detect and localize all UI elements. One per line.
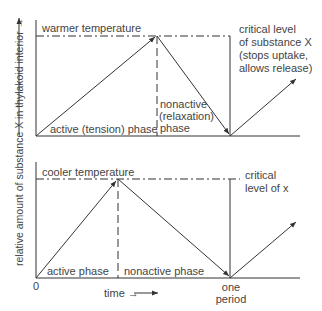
top-rise2-line — [230, 79, 296, 136]
top-critical-label-3: (stops uptake, — [239, 49, 308, 61]
bottom-active-phase-label: active phase — [47, 265, 109, 277]
origin-label: 0 — [33, 280, 39, 292]
bottom-rise-line — [36, 181, 116, 278]
bottom-critical-label-2: level of x — [245, 182, 288, 194]
bottom-rise2-line — [230, 222, 296, 278]
one-period-label: one period — [214, 281, 248, 305]
bottom-nonactive-phase-label: nonactive phase — [124, 265, 204, 277]
top-critical-label-1: critical level — [239, 23, 296, 35]
top-threshold-label: warmer temperature — [42, 22, 141, 34]
time-label: time → — [104, 287, 139, 299]
top-critical-label-4: allows release) — [239, 62, 312, 74]
top-rise-line — [36, 37, 155, 136]
top-nonactive-label-1: nonactive — [160, 98, 207, 110]
bottom-critical-label-1: critical — [245, 169, 276, 181]
bottom-threshold-label: cooler temperature — [42, 166, 134, 178]
bottom-fall-line — [118, 179, 229, 276]
y-axis-label: relative amount of substance X in thylak… — [13, 56, 25, 266]
top-nonactive-label-3: phase — [160, 122, 190, 134]
top-critical-label-2: of substance X — [239, 36, 312, 48]
top-nonactive-label-2: (relaxation) — [159, 110, 214, 122]
top-active-phase-label: active (tension) phase — [50, 123, 158, 135]
